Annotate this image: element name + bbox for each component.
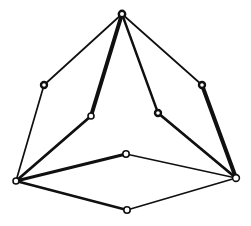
node-base-right-vertex xyxy=(233,175,240,182)
wireframe-linkage-diagram xyxy=(0,0,251,226)
node-left-upper-joint xyxy=(41,82,47,88)
figure-canvas xyxy=(0,0,251,226)
node-inner-left-joint xyxy=(88,113,94,119)
node-right-upper-joint xyxy=(199,82,205,88)
node-inner-right-joint xyxy=(155,110,161,116)
node-base-front-vertex xyxy=(124,207,130,213)
node-apex-joint xyxy=(119,11,125,17)
node-base-rear-vertex xyxy=(123,151,129,157)
node-base-left-vertex xyxy=(13,178,19,184)
